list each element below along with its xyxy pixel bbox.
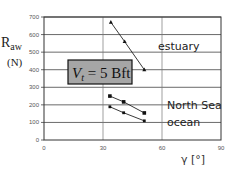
x-tick-label: 0 (42, 145, 46, 151)
y-tick-label: 0 (36, 137, 40, 143)
x-tick-label: 60 (159, 145, 166, 151)
y-tick-label: 600 (29, 32, 40, 38)
series-line-ocean (110, 107, 144, 121)
data-point-ocean (108, 105, 111, 108)
x-tick-label: 30 (100, 145, 107, 151)
y-tick-label: 500 (29, 49, 40, 55)
data-point-estuary (109, 20, 113, 24)
data-point-north-sea (108, 94, 112, 98)
data-point-ocean (122, 111, 125, 114)
y-tick-labels: 0100200300400500600700 (29, 14, 40, 143)
data-point-north-sea (122, 100, 126, 104)
series-label-estuary: estuary (158, 40, 200, 53)
y-axis-label: Raw (1, 35, 23, 52)
y-tick-label: 700 (29, 14, 40, 20)
series-label-ocean: ocean (167, 116, 200, 129)
y-axis-label-sub: aw (10, 41, 22, 52)
y-tick-label: 100 (29, 119, 40, 125)
x-axis-label: γ [°] (181, 153, 205, 166)
annotation-box: Vt = 5 Bft (68, 60, 132, 84)
annotation-rest: = 5 Bft (84, 65, 131, 81)
chart: 0100200300400500600700 0306090 Raw (N) V… (0, 0, 242, 178)
data-point-ocean (143, 119, 146, 122)
y-axis-unit: (N) (7, 56, 23, 69)
y-tick-label: 400 (29, 67, 40, 73)
data-point-north-sea (143, 111, 147, 115)
y-tick-label: 300 (29, 84, 40, 90)
series-label-north-sea: North Sea (167, 99, 222, 112)
y-tick-label: 200 (29, 102, 40, 108)
x-tick-labels: 0306090 (42, 145, 225, 151)
svg-text:Vt = 5 Bft: Vt = 5 Bft (72, 65, 131, 83)
x-tick-label: 90 (218, 145, 225, 151)
